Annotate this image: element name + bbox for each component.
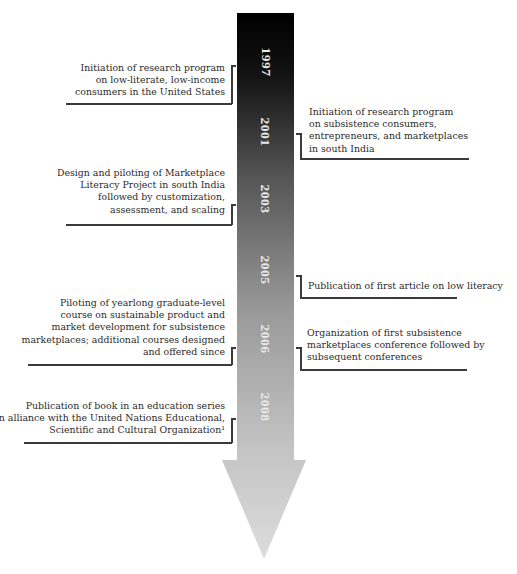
event-2001-line-3: entrepreneurs, and marketplaces (309, 130, 509, 142)
event-2006-right-note: Organization of first subsistence market… (307, 327, 517, 364)
event-2003-line-4: assessment, and scaling (5, 204, 225, 216)
connector-2006-left-cap (231, 347, 236, 349)
event-1997-line-1: Initiation of research program (25, 62, 225, 74)
event-2003-note: Design and piloting of Marketplace Liter… (5, 167, 225, 216)
event-2008-line-2: in alliance with the United Nations Educ… (0, 412, 225, 424)
event-2003-line-1: Design and piloting of Marketplace (5, 167, 225, 179)
connector-2003 (66, 224, 232, 226)
connector-2006-right (300, 369, 467, 371)
connector-2008-cap (231, 418, 236, 420)
event-2006-left-line-2: course on sustainable product and (0, 309, 225, 321)
event-2006-left-note: Piloting of yearlong graduate-level cour… (0, 297, 225, 358)
event-1997-note: Initiation of research program on low-li… (25, 62, 225, 99)
year-label-2005: 2005 (257, 250, 273, 290)
event-2003-line-2: Literacy Project in south India (5, 179, 225, 191)
connector-1997-tick (231, 65, 233, 104)
connector-2003-cap (231, 204, 236, 206)
event-2003-line-3: followed by customization, (5, 191, 225, 203)
connector-2006-right-tick (300, 347, 302, 370)
event-2005-line-1: Publication of first article on low lite… (308, 280, 517, 292)
event-2006-left-line-1: Piloting of yearlong graduate-level (0, 297, 225, 309)
connector-2008-tick (231, 418, 233, 443)
event-2006-right-line-3: subsequent conferences (307, 351, 517, 363)
event-2006-right-line-2: marketplaces conference followed by (307, 339, 517, 351)
connector-2005-tick (300, 275, 302, 298)
connector-1997-cap (231, 65, 236, 67)
event-2001-line-2: on subsistence consumers, (309, 118, 509, 130)
year-label-2001: 2001 (257, 112, 273, 152)
connector-2001-cap (296, 133, 301, 135)
connector-2001 (300, 158, 469, 160)
connector-2005-cap (296, 275, 301, 277)
year-label-2006: 2006 (257, 319, 273, 359)
event-2001-line-4: in south India (309, 143, 509, 155)
connector-2003-tick (231, 204, 233, 225)
event-2008-note: Publication of book in an education seri… (0, 400, 225, 437)
year-label-1997: 1997 (258, 42, 274, 82)
event-1997-line-2: on low-literate, low-income (25, 74, 225, 86)
event-1997-line-3: consumers in the United States (25, 86, 225, 98)
connector-2005 (300, 297, 457, 299)
event-2006-left-line-3: market development for subsistence (0, 321, 225, 333)
year-label-2003: 2003 (257, 179, 273, 219)
event-2008-line-1: Publication of book in an education seri… (0, 400, 225, 412)
event-2005-note: Publication of first article on low lite… (308, 280, 517, 292)
event-2006-right-line-1: Organization of first subsistence (307, 327, 517, 339)
connector-1997 (66, 103, 232, 105)
event-2006-left-line-5: and offered since (0, 346, 225, 358)
connector-2001-tick (300, 133, 302, 159)
event-2008-line-3: Scientific and Cultural Organization¹ (0, 424, 225, 436)
year-label-2008: 2008 (257, 387, 273, 427)
event-2001-note: Initiation of research program on subsis… (309, 106, 509, 155)
connector-2006-left (28, 364, 232, 366)
event-2001-line-1: Initiation of research program (309, 106, 509, 118)
connector-2006-left-tick (231, 347, 233, 365)
connector-2006-right-cap (296, 347, 301, 349)
event-2006-left-line-4: marketplaces; additional courses designe… (0, 334, 225, 346)
connector-2008 (24, 442, 232, 444)
